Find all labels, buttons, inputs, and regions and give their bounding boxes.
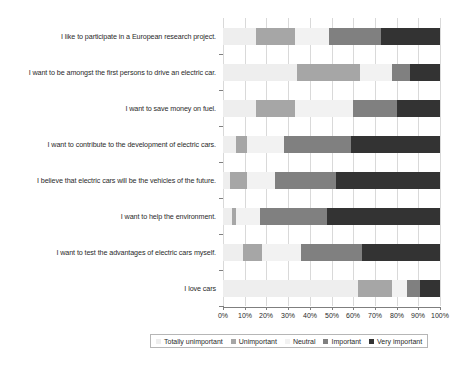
x-axis-tick <box>288 307 289 310</box>
x-axis-tick-label: 100% <box>425 312 454 319</box>
chart-legend: Totally unimportantUnimportantNeutralImp… <box>150 334 428 348</box>
legend-label: Very important <box>377 338 422 345</box>
bar-row <box>223 100 440 117</box>
bar-row <box>223 136 440 153</box>
bar-segment <box>301 244 362 261</box>
y-axis-tick <box>219 198 223 199</box>
bar-segment <box>295 28 330 45</box>
gridline <box>440 18 441 306</box>
category-label: I love cars <box>0 284 216 293</box>
legend-label: Totally unimportant <box>164 338 223 345</box>
category-label: I want to test the advantages of electri… <box>0 248 216 257</box>
gridline <box>418 18 419 306</box>
y-axis-tick <box>219 270 223 271</box>
gridline <box>332 18 333 306</box>
gridline <box>375 18 376 306</box>
x-axis-tick <box>310 307 311 310</box>
bar-segment <box>397 100 440 117</box>
bar-segment <box>353 100 396 117</box>
legend-swatch-icon <box>156 339 161 344</box>
bar-segment <box>284 136 351 153</box>
bar-segment <box>223 208 232 225</box>
legend-item[interactable]: Important <box>323 338 361 345</box>
bar-row <box>223 28 440 45</box>
gridline <box>245 18 246 306</box>
stacked-bar-chart: I like to participate in a European rese… <box>0 0 454 366</box>
bar-segment <box>236 208 260 225</box>
bar-segment <box>362 244 440 261</box>
category-label: I want to be amongst the first persons t… <box>0 68 216 77</box>
bar-segment <box>230 172 247 189</box>
y-axis-tick <box>219 126 223 127</box>
bar-segment <box>262 244 301 261</box>
bar-segment <box>360 64 393 81</box>
bar-segment <box>327 208 440 225</box>
bar-segment <box>223 136 236 153</box>
gridline <box>223 18 224 306</box>
x-axis-tick <box>223 307 224 310</box>
bar-segment <box>329 28 381 45</box>
x-axis-tick <box>266 307 267 310</box>
bar-segment <box>392 64 409 81</box>
bar-segment <box>256 100 295 117</box>
gridline <box>310 18 311 306</box>
x-axis-tick <box>418 307 419 310</box>
bar-segment <box>223 280 358 297</box>
bar-segment <box>410 64 440 81</box>
y-axis-tick <box>219 54 223 55</box>
bar-segment <box>407 280 420 297</box>
plot-area <box>223 18 440 306</box>
legend-label: Neutral <box>293 338 316 345</box>
bar-segment <box>223 244 243 261</box>
legend-item[interactable]: Very important <box>369 338 422 345</box>
bar-segment <box>420 280 440 297</box>
bar-row <box>223 244 440 261</box>
x-axis-tick <box>245 307 246 310</box>
bar-segment <box>260 208 327 225</box>
bar-segment <box>223 64 297 81</box>
legend-item[interactable]: Neutral <box>285 338 316 345</box>
bar-segment <box>247 136 284 153</box>
legend-swatch-icon <box>323 339 328 344</box>
x-axis-tick <box>332 307 333 310</box>
bar-segment <box>223 28 256 45</box>
legend-item[interactable]: Totally unimportant <box>156 338 223 345</box>
bar-segment <box>358 280 393 297</box>
legend-label: Unimportant <box>239 338 277 345</box>
bar-segment <box>223 100 256 117</box>
bar-segment <box>236 136 247 153</box>
x-axis-tick <box>440 307 441 310</box>
bar-segment <box>247 172 275 189</box>
gridline <box>353 18 354 306</box>
bar-segment <box>243 244 263 261</box>
bar-segment <box>297 64 360 81</box>
bar-row <box>223 208 440 225</box>
category-label: I want to help the environment. <box>0 212 216 221</box>
legend-swatch-icon <box>231 339 236 344</box>
x-axis-tick <box>397 307 398 310</box>
bar-segment <box>275 172 336 189</box>
category-label: I want to save money on fuel. <box>0 104 216 113</box>
legend-swatch-icon <box>369 339 374 344</box>
bar-segment <box>336 172 440 189</box>
bar-row <box>223 280 440 297</box>
x-axis-tick <box>353 307 354 310</box>
bar-row <box>223 64 440 81</box>
y-axis-tick <box>219 90 223 91</box>
bar-segment <box>351 136 440 153</box>
x-axis-tick <box>375 307 376 310</box>
category-label: I like to participate in a European rese… <box>0 32 216 41</box>
bar-segment <box>392 280 407 297</box>
legend-item[interactable]: Unimportant <box>231 338 277 345</box>
gridline <box>397 18 398 306</box>
bar-row <box>223 172 440 189</box>
category-label: I want to contribute to the development … <box>0 140 216 149</box>
legend-label: Important <box>331 338 361 345</box>
legend-swatch-icon <box>285 339 290 344</box>
y-axis-tick <box>219 162 223 163</box>
gridline <box>266 18 267 306</box>
y-axis-tick <box>219 234 223 235</box>
category-axis-labels: I like to participate in a European rese… <box>0 18 220 306</box>
bar-segment <box>295 100 354 117</box>
gridline <box>288 18 289 306</box>
